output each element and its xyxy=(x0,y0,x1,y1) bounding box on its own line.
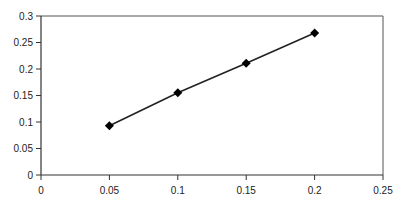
x-tick-label: 0.25 xyxy=(373,185,393,196)
x-axis: 00.050.10.150.20.25 xyxy=(38,175,393,196)
x-tick-label: 0.05 xyxy=(100,185,120,196)
y-tick-label: 0.2 xyxy=(19,64,33,75)
y-tick-label: 0.3 xyxy=(19,11,33,22)
diamond-marker xyxy=(310,28,319,37)
plot-frame xyxy=(41,16,383,175)
y-tick-label: 0.25 xyxy=(14,37,34,48)
x-tick-label: 0.1 xyxy=(171,185,185,196)
x-tick-label: 0.2 xyxy=(308,185,322,196)
y-axis: 00.050.10.150.20.250.3 xyxy=(14,11,41,181)
data-series xyxy=(105,28,319,130)
y-tick-label: 0 xyxy=(27,170,33,181)
x-tick-label: 0.15 xyxy=(236,185,256,196)
y-tick-label: 0.1 xyxy=(19,117,33,128)
series-line xyxy=(109,33,314,126)
diamond-marker xyxy=(173,88,182,97)
diamond-marker xyxy=(242,59,251,68)
diamond-marker xyxy=(105,121,114,130)
y-tick-label: 0.15 xyxy=(14,90,34,101)
x-tick-label: 0 xyxy=(38,185,44,196)
y-tick-label: 0.05 xyxy=(14,143,34,154)
line-chart: 00.050.10.150.20.250.3 00.050.10.150.20.… xyxy=(0,0,401,208)
